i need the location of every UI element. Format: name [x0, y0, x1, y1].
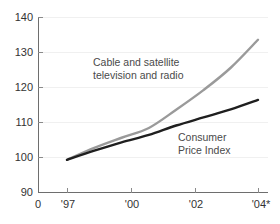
- x-tick-label-04: '04*: [252, 198, 271, 210]
- x-tick-label-00: '00: [125, 198, 139, 210]
- y-tick-label-100: 100: [15, 151, 33, 163]
- x-tick-label-origin: 0: [35, 198, 41, 210]
- axes: [38, 17, 268, 193]
- chart-container: 140 130 120 110 100 90 0 '97 '00 '02 '04…: [0, 0, 280, 224]
- line-chart: 140 130 120 110 100 90 0 '97 '00 '02 '04…: [0, 0, 280, 224]
- annotation-cpi-line1: Consumer: [178, 131, 227, 143]
- y-tick-label-110: 110: [15, 116, 33, 128]
- y-tick-label-130: 130: [15, 46, 33, 58]
- annotation-cable-satellite: Cable and satellite television and radio: [93, 56, 184, 81]
- annotation-cable-line1: Cable and satellite: [93, 56, 180, 68]
- y-tick-label-140: 140: [15, 11, 33, 23]
- y-tick-label-120: 120: [15, 81, 33, 93]
- footnote-strip: [0, 217, 280, 224]
- x-tick-label-02: '02: [189, 198, 203, 210]
- annotation-consumer-price-index: Consumer Price Index: [178, 131, 231, 156]
- annotation-cable-line2: television and radio: [93, 69, 184, 81]
- gridlines: [40, 17, 268, 157]
- y-tick-label-90: 90: [21, 186, 33, 198]
- annotation-cpi-line2: Price Index: [178, 144, 231, 156]
- x-tick-label-97: '97: [61, 198, 75, 210]
